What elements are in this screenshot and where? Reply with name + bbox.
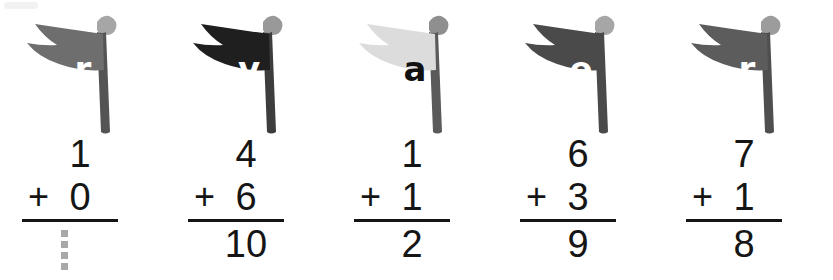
equation-5: 7 + 1 8: [664, 134, 830, 219]
flag-graphic-3: a: [332, 8, 498, 136]
addend-row-5: + 1: [664, 175, 830, 219]
addend-bottom-3: 1: [332, 175, 498, 219]
addend-top-4: 6: [498, 134, 664, 175]
flag-graphic-4: e: [498, 8, 664, 136]
flag-graphic-1: r: [0, 8, 166, 136]
addend-bottom-4: 3: [498, 175, 664, 219]
equation-1: 1 + 0 1: [0, 134, 166, 219]
sum-answer-2[interactable]: 10: [166, 222, 332, 266]
equation-3: 1 + 1 2: [332, 134, 498, 219]
sum-answer-1[interactable]: 1: [0, 222, 166, 266]
equation-4: 6 + 3 9: [498, 134, 664, 219]
addend-row-4: + 3: [498, 175, 664, 219]
flag-pennant-icon: [664, 8, 830, 136]
addend-top-5: 7: [664, 134, 830, 175]
addend-row-1: + 0: [0, 175, 166, 219]
flag-graphic-5: r: [664, 8, 830, 136]
equation-2: 4 + 6 10: [166, 134, 332, 219]
addend-bottom-5: 1: [664, 175, 830, 219]
addend-top-3: 1: [332, 134, 498, 175]
addend-top-2: 4: [166, 134, 332, 175]
flag-pennant-icon: [166, 8, 332, 136]
flag-graphic-2: v: [166, 8, 332, 136]
problem-5: r 7 + 1 8: [664, 0, 830, 280]
problem-3: a 1 + 1 2: [332, 0, 498, 280]
worksheet-canvas: r 1 + 0 1 v 4 +: [0, 0, 833, 280]
addend-row-3: + 1: [332, 175, 498, 219]
addend-row-2: + 6: [166, 175, 332, 219]
flag-pennant-icon: [498, 8, 664, 136]
addend-bottom-1: 0: [0, 175, 166, 219]
sum-answer-3[interactable]: 2: [332, 222, 498, 266]
sum-answer-4[interactable]: 9: [498, 222, 664, 266]
problem-2: v 4 + 6 10: [166, 0, 332, 280]
flag-pennant-icon: [0, 8, 166, 136]
sum-answer-5[interactable]: 8: [664, 222, 830, 266]
problem-4: e 6 + 3 9: [498, 0, 664, 280]
flag-pennant-icon: [332, 8, 498, 136]
addend-bottom-2: 6: [166, 175, 332, 219]
problem-1: r 1 + 0 1: [0, 0, 166, 280]
addend-top-1: 1: [0, 134, 166, 175]
traced-answer-dashes-1[interactable]: [61, 230, 68, 270]
